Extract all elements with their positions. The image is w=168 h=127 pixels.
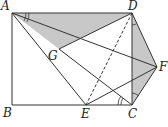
segment-gc (59, 49, 132, 105)
label-a: A (1, 0, 10, 12)
angle-mark-c2 (121, 98, 123, 105)
label-g: G (48, 50, 58, 62)
segment-ef (86, 67, 157, 105)
label-f: F (159, 61, 167, 73)
label-d: D (128, 0, 138, 12)
shaded-region-adg (12, 13, 132, 49)
geometry-diagram: A D B C E F G (0, 0, 168, 127)
angle-mark-c (118, 96, 121, 105)
label-b: B (3, 107, 12, 119)
label-e: E (81, 108, 90, 120)
label-c: C (128, 108, 137, 120)
